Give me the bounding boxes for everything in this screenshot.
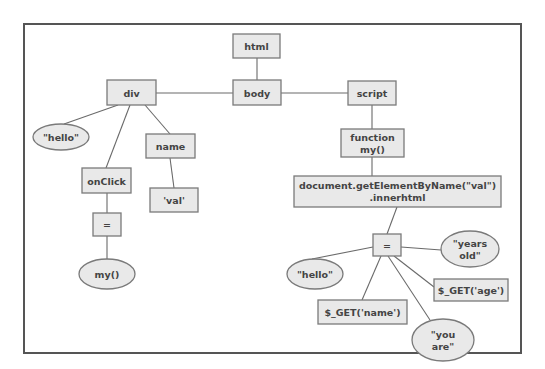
svg-text:$_GET('name'): $_GET('name') (324, 307, 400, 318)
svg-text:script: script (357, 88, 388, 99)
svg-text:'val': 'val' (163, 195, 185, 206)
node-onclick-eq: = (93, 213, 121, 236)
node-function-my: function my() (341, 129, 404, 157)
node-you-are: "you are" (412, 319, 474, 361)
svg-text:"hello": "hello" (43, 132, 79, 143)
node-div-hello: "hello" (33, 124, 89, 150)
svg-text:.innerhtml: .innerhtml (370, 192, 426, 203)
svg-text:name: name (156, 141, 186, 152)
svg-text:html: html (244, 41, 268, 52)
node-body: body (233, 80, 281, 105)
node-hello-right: "hello" (287, 259, 343, 289)
node-assign-eq: = (373, 234, 401, 256)
node-div: div (107, 80, 156, 105)
svg-text:body: body (244, 88, 271, 99)
node-script: script (348, 81, 396, 105)
svg-text:document.getElementByName("val: document.getElementByName("val") (299, 180, 496, 191)
node-get-age: $_GET('age') (434, 279, 508, 301)
parse-tree-diagram: html body div script "hello" name onClic… (0, 0, 545, 369)
svg-text:function: function (350, 132, 395, 143)
svg-text:"hello": "hello" (297, 269, 333, 280)
node-onclick: onClick (82, 168, 131, 193)
svg-text:=: = (103, 219, 111, 230)
svg-text:my(): my() (95, 269, 120, 280)
node-get-name: $_GET('name') (318, 300, 407, 324)
node-document: document.getElementByName("val") .innerh… (294, 176, 501, 207)
svg-text:"you: "you (431, 329, 455, 340)
node-name: name (146, 134, 195, 158)
node-years-old: "years old" (441, 231, 499, 267)
svg-text:onClick: onClick (87, 176, 126, 187)
node-val: 'val' (150, 188, 198, 212)
node-html: html (233, 34, 280, 58)
svg-text:old": old" (459, 250, 481, 261)
svg-text:div: div (123, 88, 140, 99)
svg-text:are": are" (432, 341, 455, 352)
node-my-call: my() (79, 259, 135, 289)
svg-text:"years: "years (453, 238, 488, 249)
svg-text:my(): my() (360, 144, 385, 155)
svg-text:$_GET('age'): $_GET('age') (438, 285, 504, 296)
svg-text:=: = (383, 240, 391, 251)
